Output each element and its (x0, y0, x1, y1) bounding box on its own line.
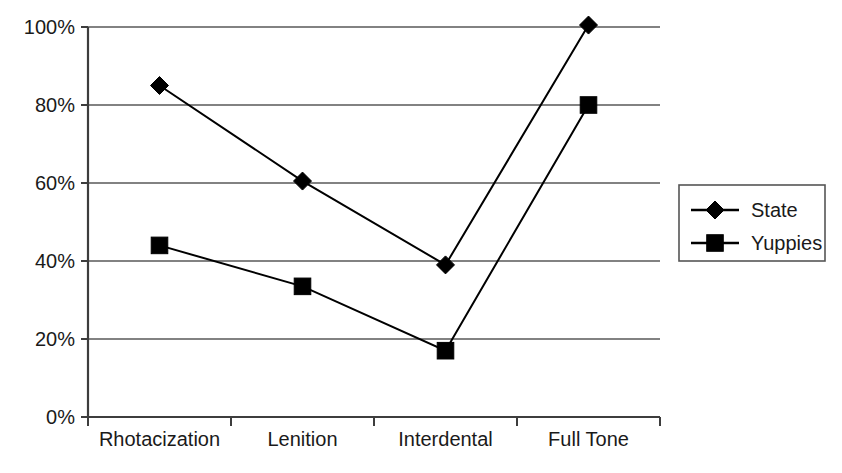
y-axis-tick-label: 40% (35, 250, 75, 272)
x-axis-tick-label: Interdental (398, 428, 493, 450)
x-axis-tick-label: Rhotacization (99, 428, 220, 450)
screenshot-root: 0%20%40%60%80%100% RhotacizationLenition… (0, 0, 842, 473)
y-axis-tick-label: 0% (46, 406, 75, 428)
line-chart-figure: 0%20%40%60%80%100% RhotacizationLenition… (0, 0, 842, 473)
x-axis-tick-label: Lenition (267, 428, 337, 450)
data-point-marker (151, 237, 168, 254)
data-point-marker (580, 97, 597, 114)
data-point-marker (294, 278, 311, 295)
y-axis-tick-label: 80% (35, 94, 75, 116)
y-axis-tick-label: 60% (35, 172, 75, 194)
legend-marker-square (707, 235, 724, 252)
chart-legend: StateYuppies (679, 185, 825, 261)
y-axis-tick-label: 100% (24, 16, 75, 38)
y-axis-tick-label: 20% (35, 328, 75, 350)
data-point-marker (437, 342, 454, 359)
chart-canvas: 0%20%40%60%80%100% RhotacizationLenition… (0, 0, 842, 473)
legend-label: Yuppies (751, 232, 822, 254)
page-caption (0, 461, 842, 473)
x-axis-tick-label: Full Tone (548, 428, 629, 450)
legend-item-yuppies[interactable]: Yuppies (691, 232, 822, 254)
legend-label: State (751, 199, 798, 221)
